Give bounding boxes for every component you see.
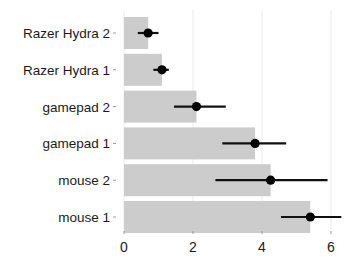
- y-axis-labels: Razer Hydra 2Razer Hydra 1gamepad 2gamep…: [23, 26, 116, 225]
- category-label: gamepad 1: [42, 136, 110, 151]
- x-axis-labels: 0246: [120, 231, 335, 255]
- x-tick-label: 4: [258, 239, 266, 255]
- mean-point: [157, 65, 166, 74]
- x-tick-label: 0: [120, 239, 128, 255]
- mean-point: [266, 176, 275, 185]
- category-label: Razer Hydra 1: [23, 63, 110, 78]
- mean-point: [306, 212, 315, 221]
- mean-point: [144, 28, 153, 37]
- category-label: mouse 1: [58, 210, 110, 225]
- category-label: gamepad 2: [42, 100, 110, 115]
- bars: [124, 17, 310, 233]
- x-tick-label: 2: [189, 239, 197, 255]
- bar-chart: Razer Hydra 2Razer Hydra 1gamepad 2gamep…: [0, 0, 357, 272]
- category-label: mouse 2: [58, 173, 110, 188]
- mean-point: [251, 139, 260, 148]
- category-label: Razer Hydra 2: [23, 26, 110, 41]
- x-tick-label: 6: [327, 239, 335, 255]
- mean-point: [192, 102, 201, 111]
